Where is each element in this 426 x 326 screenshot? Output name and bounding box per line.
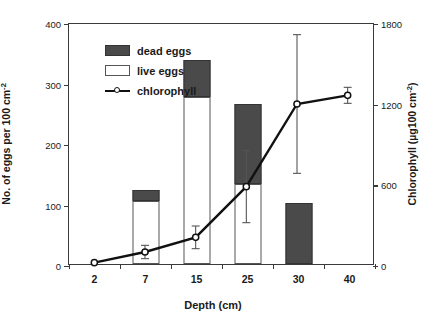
- x-axis-tick: [375, 264, 376, 269]
- x-axis-tick: [69, 264, 70, 269]
- filled-square-swatch-icon: [105, 45, 130, 56]
- x-axis-tick-label: 30: [293, 273, 305, 285]
- x-axis-tick-label: 7: [143, 273, 149, 285]
- line-circle-marker-icon: [105, 85, 130, 96]
- y-axis-right-tick-label: 0: [381, 261, 386, 272]
- y-axis-left-tick-label: 0: [56, 261, 61, 272]
- chlorophyll-marker: [193, 234, 199, 240]
- x-axis-tick-label: 40: [344, 273, 356, 285]
- y-axis-title-left-text: No. of eggs per 100 cm: [0, 90, 12, 205]
- y-axis-left-tick-label: 300: [45, 79, 61, 90]
- x-axis-tick-label: 2: [92, 273, 98, 285]
- x-axis-tick: [324, 264, 325, 269]
- x-axis-tick-label: 15: [191, 273, 203, 285]
- y-axis-right-tick-label: 600: [381, 180, 397, 191]
- y-axis-right-tick: [373, 105, 378, 106]
- y-axis-title-left: No. of eggs per 100 cm-2: [0, 83, 12, 205]
- x-axis-tick: [273, 264, 274, 269]
- y-axis-left-tick-label: 200: [45, 140, 61, 151]
- legend-item-dead-eggs: dead eggs: [105, 42, 196, 59]
- x-axis-tick-label: 25: [242, 273, 254, 285]
- chlorophyll-marker: [243, 184, 249, 190]
- x-axis-tick: [171, 264, 172, 269]
- y-axis-title-left-exponent: -2: [0, 83, 8, 90]
- y-axis-right-tick: [373, 185, 378, 186]
- legend-item-live-eggs: live eggs: [105, 62, 196, 79]
- legend-label-chlorophyll: chlorophyll: [137, 85, 196, 97]
- hollow-square-swatch-icon: [105, 65, 130, 76]
- legend: dead eggs live eggs chlorophyll: [105, 42, 196, 102]
- legend-label-dead-eggs: dead eggs: [137, 45, 191, 57]
- y-axis-right-tick-label: 1800: [381, 19, 402, 30]
- legend-label-live-eggs: live eggs: [137, 65, 184, 77]
- y-axis-left-tick-label: 400: [45, 19, 61, 30]
- x-axis-tick: [120, 264, 121, 269]
- y-axis-right-tick-label: 1200: [381, 99, 402, 110]
- x-axis-title: Depth (cm): [0, 299, 426, 311]
- y-axis-title-right-exponent: -2: [405, 86, 414, 93]
- x-axis-tick: [222, 264, 223, 269]
- y-axis-title-right: Chlorophyll (µg100 cm-2): [406, 82, 418, 205]
- plot-area: 0100200300400 060012001800 2715253040 de…: [68, 23, 374, 265]
- y-axis-title-right-paren: ): [406, 82, 418, 86]
- y-axis-right-tick: [373, 24, 378, 25]
- chlorophyll-marker: [294, 101, 300, 107]
- y-axis-title-right-text: Chlorophyll (µg100 cm: [406, 93, 418, 206]
- chlorophyll-marker: [345, 92, 351, 98]
- chart-figure: No. of eggs per 100 cm-2 Chlorophyll (µg…: [0, 0, 426, 326]
- y-axis-left-tick-label: 100: [45, 200, 61, 211]
- chlorophyll-marker: [142, 249, 148, 255]
- legend-item-chlorophyll: chlorophyll: [105, 82, 196, 99]
- chlorophyll-line: [94, 95, 347, 262]
- chlorophyll-marker: [91, 260, 97, 266]
